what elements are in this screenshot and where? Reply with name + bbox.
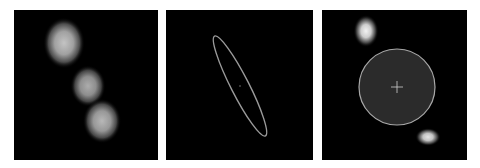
ellipse-center-dot	[239, 85, 241, 87]
ellipse-fit-panel	[166, 10, 313, 160]
circle-mask-panel	[322, 10, 467, 160]
blob	[43, 17, 85, 68]
blob	[83, 99, 121, 144]
blob	[353, 15, 378, 47]
ellipse-fit-image	[166, 10, 313, 160]
circle-mask-image	[322, 10, 467, 160]
blob-image	[14, 10, 158, 160]
blob-image-panel	[14, 10, 158, 160]
blob	[415, 128, 440, 146]
